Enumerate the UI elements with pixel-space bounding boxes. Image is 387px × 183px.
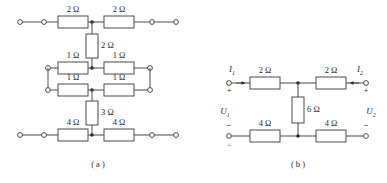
caption-a: ( a ) <box>91 159 105 169</box>
circuit-a-middle-lower-row: 1 Ω 1 Ω <box>46 72 153 96</box>
circuit-b-vertical-6ohm-branch: 6 Ω <box>292 83 320 136</box>
node-a-middle-upper-center <box>90 66 94 70</box>
arrowhead-i1 <box>242 81 246 85</box>
node-a-bottom-center <box>90 133 94 137</box>
resistor-b-r3 <box>292 97 304 123</box>
resistor-b-r5 <box>316 130 346 142</box>
resistor-a-r7 <box>104 84 134 96</box>
resistor-a-r2 <box>104 16 134 28</box>
terminal-a-t11[interactable] <box>150 133 155 138</box>
resistor-label-a-r1: 2 Ω <box>67 4 80 14</box>
resistor-b-r2 <box>316 77 346 89</box>
resistor-label-a-r8: 3 Ω <box>101 107 114 117</box>
circuit-a-top-row: 2 Ω 2 Ω <box>18 4 179 28</box>
resistor-a-r1 <box>58 16 88 28</box>
terminal-b-port1-plus[interactable] <box>227 81 232 86</box>
resistor-label-b-r2: 2 Ω <box>325 65 338 75</box>
circuit-a: 2 Ω 2 Ω 2 Ω 1 Ω 1 Ω <box>18 4 179 169</box>
terminal-a-t8[interactable] <box>148 88 153 93</box>
resistor-b-r4 <box>250 130 280 142</box>
resistor-label-a-r6: 1 Ω <box>67 72 80 82</box>
arrowhead-i2 <box>350 81 354 85</box>
resistor-label-a-r5: 1 Ω <box>113 50 126 60</box>
resistor-a-r9 <box>58 129 88 141</box>
resistor-b-r1 <box>250 77 280 89</box>
polarity-plus-port1: + <box>227 86 232 95</box>
current-label-i1: I1 <box>228 64 235 76</box>
terminal-a-t7[interactable] <box>46 88 51 93</box>
terminal-b-port1-minus[interactable] <box>227 134 232 139</box>
current-arrow-i2 <box>350 81 360 85</box>
terminal-a-t12[interactable] <box>174 133 179 138</box>
current-arrow-i1 <box>236 81 246 85</box>
resistor-label-a-r3: 2 Ω <box>101 40 114 50</box>
polarity-plus-port2: + <box>364 86 369 95</box>
polarity-minus-port2: − <box>364 121 369 130</box>
polarity-plus-stray: + <box>227 141 232 150</box>
resistor-label-a-r9: 4 Ω <box>67 117 80 127</box>
resistor-a-r8 <box>86 101 98 125</box>
resistor-a-r6 <box>58 84 88 96</box>
resistor-label-b-r1: 2 Ω <box>259 65 272 75</box>
circuit-a-middle-upper-row: 1 Ω 1 Ω <box>46 50 153 74</box>
resistor-label-b-r3: 6 Ω <box>307 104 320 114</box>
resistor-a-r10 <box>104 129 134 141</box>
circuit-figure: 2 Ω 2 Ω 2 Ω 1 Ω 1 Ω <box>0 0 387 183</box>
resistor-label-a-r7: 1 Ω <box>113 72 126 82</box>
circuit-b: 2 Ω 2 Ω I1 I2 + + 6 Ω <box>220 64 376 169</box>
terminal-b-port2-plus[interactable] <box>364 81 369 86</box>
node-b-bottom-center <box>296 134 300 138</box>
resistor-label-b-r5: 4 Ω <box>325 118 338 128</box>
resistor-a-r3 <box>86 34 98 58</box>
terminal-a-t10[interactable] <box>42 133 47 138</box>
resistor-label-b-r4: 4 Ω <box>259 118 272 128</box>
voltage-label-u2: U2 <box>366 106 376 118</box>
terminal-a-t9[interactable] <box>18 133 23 138</box>
terminal-b-port2-minus[interactable] <box>364 134 369 139</box>
circuit-a-vertical-3ohm-branch: 3 Ω <box>86 90 114 135</box>
terminal-a-t1[interactable] <box>18 20 23 25</box>
resistor-label-a-r2: 2 Ω <box>113 4 126 14</box>
terminal-a-t3[interactable] <box>150 20 155 25</box>
terminal-a-t2[interactable] <box>42 20 47 25</box>
voltage-label-u1: U1 <box>220 106 230 118</box>
resistor-label-a-r4: 1 Ω <box>67 50 80 60</box>
caption-b: ( b ) <box>291 159 305 169</box>
resistor-label-a-r10: 4 Ω <box>113 117 126 127</box>
terminal-a-t4[interactable] <box>174 20 179 25</box>
polarity-minus-port1: − <box>227 121 232 130</box>
current-label-i2: I2 <box>356 64 363 76</box>
